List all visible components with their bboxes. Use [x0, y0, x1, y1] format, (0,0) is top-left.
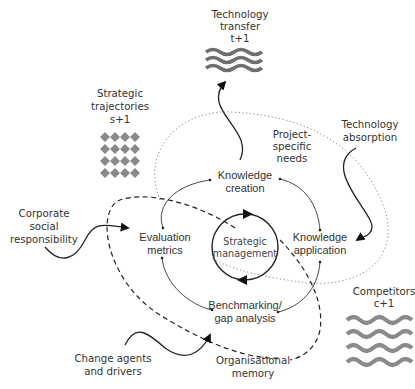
label-project-needs-1: Project- — [273, 129, 312, 140]
label-strategic-trajectories-3: s+1 — [110, 114, 130, 125]
label-change-agents-2: and drivers — [84, 366, 142, 377]
center-strategic-management-2: management — [213, 248, 278, 259]
label-technology-absorption-1: Technology — [340, 119, 398, 130]
node-evaluation-metrics-2: metrics — [147, 244, 183, 256]
node-benchmarking-1: Benchmarking/ — [208, 299, 282, 311]
label-strategic-trajectories-1: Strategic — [97, 88, 143, 99]
label-change-agents-1: Change agents — [75, 353, 152, 364]
strategic-management-circle — [212, 214, 278, 280]
cycle-arrow-top-icon — [243, 209, 253, 219]
center-strategic-management-1: Strategic — [223, 236, 266, 247]
competitors-wave-icon — [347, 317, 412, 365]
label-technology-transfer-2: transfer — [220, 21, 261, 32]
label-technology-absorption-2: absorption — [343, 132, 397, 143]
label-csr-1: Corporate — [19, 208, 70, 219]
organisational-memory-dashed-loop-right — [280, 240, 321, 360]
technology-transfer-arrow — [218, 82, 242, 160]
strategic-trajectories-diamond-grid-icon — [100, 132, 140, 178]
label-technology-transfer-3: t+1 — [230, 33, 249, 44]
knowledge-management-diagram: Technology transfer t+1 Strategic trajec… — [0, 0, 415, 389]
node-benchmarking-2: gap analysis — [214, 312, 276, 324]
label-project-needs-2: specific — [273, 141, 312, 152]
label-csr-3: responsibility — [10, 234, 78, 245]
node-knowledge-creation-2: creation — [225, 182, 264, 194]
technology-absorption-arrow — [343, 148, 372, 240]
label-competitors-2: c+1 — [374, 298, 395, 309]
node-evaluation-metrics-1: Evaluation — [139, 231, 190, 243]
label-organisational-memory-2: memory — [232, 368, 275, 379]
label-organisational-memory-1: Organisational — [216, 355, 290, 366]
cycle-arrow-bottom-icon — [237, 275, 247, 285]
node-knowledge-application-2: application — [294, 244, 347, 256]
label-technology-transfer-1: Technology — [210, 9, 268, 20]
label-project-needs-3: needs — [277, 153, 308, 164]
label-csr-2: social — [29, 221, 58, 232]
technology-transfer-wave-icon — [206, 50, 262, 71]
node-knowledge-creation-1: Knowledge — [218, 169, 272, 181]
label-strategic-trajectories-2: trajectories — [91, 101, 149, 112]
node-knowledge-application-1: Knowledge — [293, 231, 347, 243]
label-competitors-1: Competitors — [353, 286, 415, 297]
